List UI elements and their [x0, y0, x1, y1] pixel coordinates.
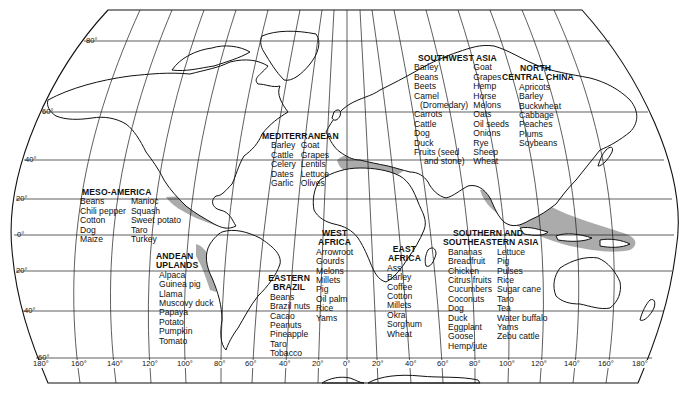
lon-label-20e: 20° [371, 360, 384, 368]
region-east-africa: EAST AFRICA Ass Barley Coffee Cotton Mil… [387, 245, 422, 339]
lon-label-100w: 100° [176, 360, 194, 368]
lat-label-40: 40° [25, 156, 36, 164]
crop-item: Tobacco [270, 349, 310, 358]
lon-label-160e: 160° [597, 360, 615, 368]
lon-label-120e: 120° [530, 360, 548, 368]
lon-label-20w: 20° [311, 360, 324, 368]
crop-item: Tomato [159, 337, 213, 346]
lat-label-0: 0° [17, 231, 24, 239]
crop-item: Wheat [473, 157, 509, 166]
lon-label-40w: 40° [278, 360, 291, 368]
region-meso-america: MESO-AMERICA Beans Chili pepper Cotton D… [80, 188, 181, 244]
crop-item: Zebu cattle [497, 332, 548, 341]
lat-label-40s: 40° [24, 307, 35, 315]
lon-label-60w: 60° [244, 360, 257, 368]
lon-label-60e: 60° [436, 360, 449, 368]
region-west-africa: WEST AFRICA Arrowroot Gourds Melons Mill… [316, 229, 353, 323]
crop-item: Maize [80, 235, 126, 244]
crop-item: Yams [316, 314, 353, 323]
region-andean-uplands: ANDEAN UPLANDS Alpaca Guinea pig Llama M… [156, 252, 213, 346]
region-eastern-brazil: EASTERN BRAZIL Beans Brazil nuts Cacao P… [268, 274, 310, 359]
region-southern-southeastern-asia: SOUTHERN AND SOUTHEASTERN ASIA Bananas B… [443, 229, 548, 351]
crop-item: and stone) [424, 157, 468, 166]
crop-item: Wheat [387, 330, 422, 339]
lat-label-60: 60° [42, 108, 53, 116]
region-mediterranean: MEDITERRANEAN Barley Cattle Celery Dates… [262, 132, 339, 188]
lon-label-80w: 80° [213, 360, 226, 368]
lat-label-20s: 20° [16, 267, 27, 275]
lon-label-100e: 100° [498, 360, 516, 368]
crop-item: Garlic [271, 179, 296, 188]
lat-label-80: 80° [86, 37, 97, 45]
crop-item: Soybeans [519, 139, 574, 148]
lon-label-140e: 140° [563, 360, 581, 368]
lon-label-40e: 40° [404, 360, 417, 368]
region-north-central-china: NORTH CENTRAL CHINA Apricots Barley Buck… [502, 64, 574, 149]
lon-label-160w: 160° [70, 360, 88, 368]
region-southwest-asia: SOUTHWEST ASIA Barley Beans Beets Camel … [414, 54, 509, 167]
greenland [261, 31, 319, 80]
crop-item: Olives [301, 179, 329, 188]
new-zealand [640, 299, 655, 320]
lon-label-140w: 140° [106, 360, 124, 368]
lon-label-80e: 80° [468, 360, 481, 368]
lon-label-180w: 180° [32, 360, 50, 368]
australia [554, 257, 621, 308]
lon-label-120w: 120° [141, 360, 159, 368]
antarctica [322, 375, 480, 383]
lon-label-180e: 180° [631, 360, 649, 368]
crop-item: Turkey [131, 235, 181, 244]
lon-label-0: 0° [342, 360, 351, 368]
crop-item: Hemp/jute [448, 342, 492, 351]
lat-label-20n: 20° [16, 195, 27, 203]
madagascar [425, 248, 436, 266]
